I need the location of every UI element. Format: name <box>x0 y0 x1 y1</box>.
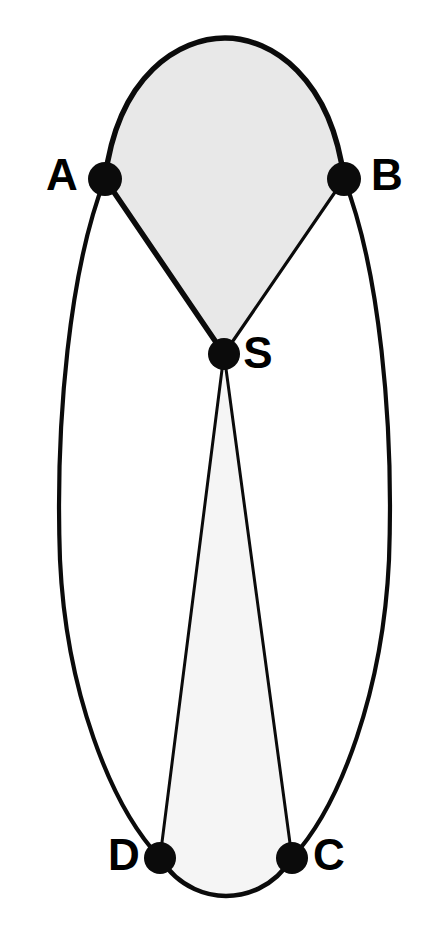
node-label-B: B <box>371 150 403 199</box>
region-S-D-C-fill <box>160 354 292 896</box>
node-label-S: S <box>243 328 272 377</box>
node-label-C: C <box>313 830 345 879</box>
node-S[interactable] <box>208 338 240 370</box>
graph-figure: A B S D C <box>0 0 423 932</box>
node-label-D: D <box>108 830 140 879</box>
edge-A-D-outer[interactable] <box>59 179 160 858</box>
graph-canvas: A B S D C <box>0 0 423 932</box>
edge-B-C-outer[interactable] <box>292 179 390 858</box>
node-B[interactable] <box>327 162 361 196</box>
node-A[interactable] <box>88 162 122 196</box>
node-label-A: A <box>46 150 78 199</box>
node-D[interactable] <box>144 842 176 874</box>
node-C[interactable] <box>276 842 308 874</box>
